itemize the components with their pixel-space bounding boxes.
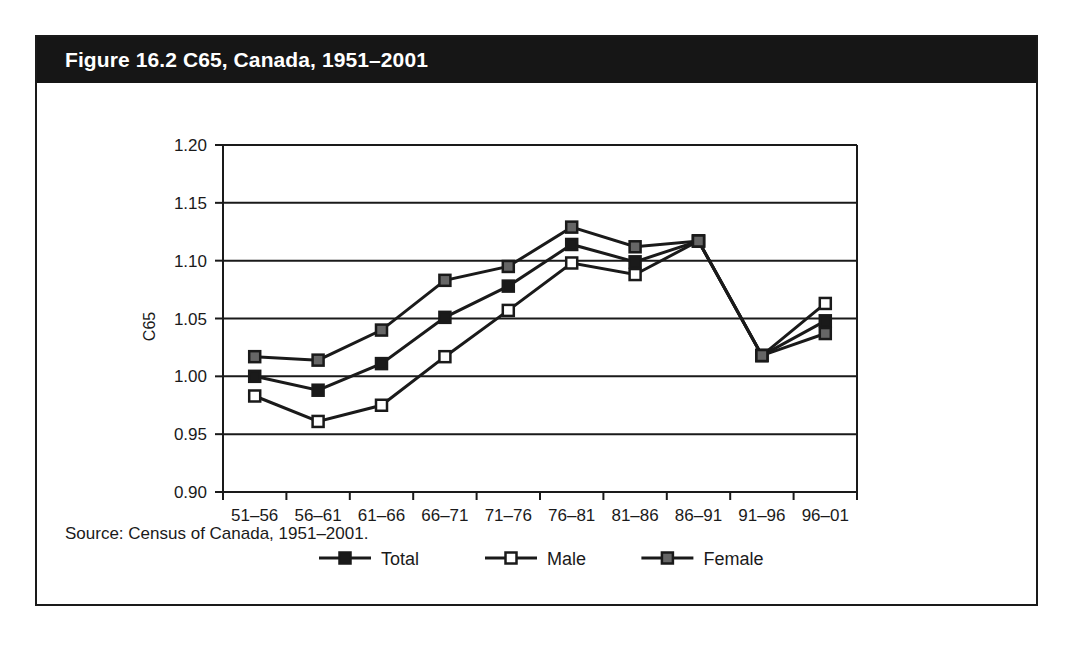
data-point-total: [249, 371, 260, 382]
data-point-total: [439, 312, 450, 323]
y-axis-tick-label: 1.20: [174, 136, 207, 155]
screenshot-page: Figure 16.2 C65, Canada, 1951–2001 1.201…: [0, 0, 1075, 669]
x-axis-tick-label: 71–76: [485, 506, 532, 525]
x-axis-tick-label: 86–91: [675, 506, 722, 525]
series-line-male: [255, 241, 826, 421]
data-point-male: [376, 400, 387, 411]
data-point-female: [313, 355, 324, 366]
line-chart: 1.201.151.101.051.000.950.90C6551–5656–6…: [37, 83, 1037, 573]
x-axis-tick-label: 66–71: [421, 506, 468, 525]
data-point-male: [313, 416, 324, 427]
figure-title: Figure 16.2 C65, Canada, 1951–2001: [65, 48, 428, 72]
x-axis-tick-label: 56–61: [294, 506, 341, 525]
data-point-female: [376, 325, 387, 336]
y-axis-tick-label: 1.10: [174, 252, 207, 271]
x-axis-tick-label: 61–66: [358, 506, 405, 525]
y-axis-title: C65: [141, 312, 158, 341]
y-axis-tick-label: 1.00: [174, 367, 207, 386]
figure-container: Figure 16.2 C65, Canada, 1951–2001 1.201…: [35, 35, 1038, 606]
legend-label-female: Female: [703, 549, 763, 569]
data-point-male: [439, 351, 450, 362]
legend-label-male: Male: [547, 549, 586, 569]
data-point-total: [630, 256, 641, 267]
data-point-male: [630, 269, 641, 280]
data-point-male: [503, 305, 514, 316]
data-point-male: [820, 298, 831, 309]
data-point-total: [503, 281, 514, 292]
source-note: Source: Census of Canada, 1951–2001.: [65, 524, 368, 544]
x-axis-tick-label: 81–86: [611, 506, 658, 525]
data-point-total: [313, 385, 324, 396]
y-axis-tick-label: 0.95: [174, 425, 207, 444]
data-point-female: [439, 275, 450, 286]
y-axis-tick-label: 1.15: [174, 194, 207, 213]
x-axis-tick-label: 51–56: [231, 506, 278, 525]
data-point-total: [820, 315, 831, 326]
legend-marker-female: [662, 553, 673, 564]
data-point-male: [249, 390, 260, 401]
data-point-female: [249, 351, 260, 362]
data-point-total: [566, 239, 577, 250]
figure-title-banner: Figure 16.2 C65, Canada, 1951–2001: [37, 37, 1036, 83]
legend-label-total: Total: [381, 549, 419, 569]
data-point-female: [630, 241, 641, 252]
x-axis-tick-label: 91–96: [738, 506, 785, 525]
data-point-male: [566, 257, 577, 268]
legend-marker-total: [340, 553, 351, 564]
x-axis-tick-label: 76–81: [548, 506, 595, 525]
data-point-female: [503, 261, 514, 272]
data-point-female: [756, 350, 767, 361]
legend-marker-male: [506, 553, 517, 564]
data-point-female: [566, 222, 577, 233]
y-axis-tick-label: 0.90: [174, 483, 207, 502]
x-axis-tick-label: 96–01: [802, 506, 849, 525]
series-line-female: [255, 227, 826, 360]
data-point-female: [693, 236, 704, 247]
plot-wrapper: 1.201.151.101.051.000.950.90C6551–5656–6…: [37, 83, 1037, 573]
data-point-total: [376, 358, 387, 369]
y-axis-tick-label: 1.05: [174, 310, 207, 329]
data-point-female: [820, 328, 831, 339]
